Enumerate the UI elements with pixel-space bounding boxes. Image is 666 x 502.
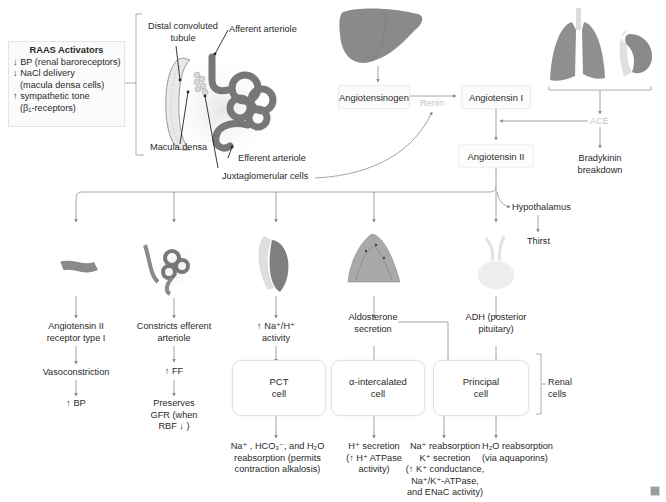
- label-efferent-arteriole: Efferent arteriole: [238, 153, 306, 165]
- renal-line1: Renal: [548, 377, 578, 389]
- glomerulus-icon: [145, 243, 199, 294]
- activator-item: (macula densa cells): [9, 80, 124, 92]
- activators-title: RAAS Activators: [9, 45, 124, 57]
- at1r-line2: receptor type I: [36, 333, 116, 345]
- hypothalamus-label: Hypothalamus: [512, 202, 571, 214]
- renal-cells-label: Renal cells: [548, 377, 578, 400]
- principal-line2: cell: [463, 388, 499, 400]
- adh-label: ADH (posterior pituitary): [456, 312, 536, 335]
- nah-line2: activity: [246, 333, 306, 345]
- adrenal-gland-icon: [348, 234, 400, 282]
- kidney-icon: [620, 30, 653, 76]
- pct-outcome-line: contraction alkalosis): [230, 464, 325, 476]
- pct-outcome-line: reabsorption (permits: [230, 453, 325, 465]
- kidney-small-icon: [258, 236, 288, 292]
- principal-outcome: Na⁺ reabsorption K⁺ secretion (↑ K⁺ cond…: [404, 441, 486, 499]
- ace-label: ACE: [590, 116, 609, 128]
- pituitary-icon: [478, 236, 514, 289]
- principal-outcome-line: (↑ K⁺ conductance,: [404, 464, 486, 476]
- alpha-intercalated-cell-box: α-intercalated cell: [331, 360, 425, 416]
- gfr-line3: RBF ↓ ): [139, 421, 209, 433]
- pct-cell-box: PCT cell: [232, 360, 326, 416]
- label-afferent-arteriole: Afferent arteriole: [229, 24, 297, 36]
- liver-icon: [339, 8, 422, 63]
- activator-item: ↓ NaCl delivery: [9, 68, 124, 80]
- na-h-activity-label: ↑ Na⁺/H⁺ activity: [246, 321, 306, 344]
- alpha-outcome-line: H⁺ secretion: [341, 441, 407, 453]
- pct-line1: PCT: [270, 376, 289, 388]
- activator-item: ↓ BP (renal baroreceptors): [9, 57, 124, 69]
- angiotensin-2-box: Angiotensin II: [458, 144, 534, 168]
- angiotensin-1-box: Angiotensin I: [461, 85, 531, 109]
- alpha-line2: cell: [349, 388, 407, 400]
- lungs-icon: [550, 8, 605, 81]
- gfr-line2: GFR (when: [139, 410, 209, 422]
- principal-outcome-line: Na⁺ reabsorption: [404, 441, 486, 453]
- principal-line1: Principal: [463, 376, 499, 388]
- aldo-line1: Aldosterone: [340, 312, 406, 324]
- alpha-outcome-line: activity): [341, 464, 407, 476]
- at1-receptor-label: Angiotensin II receptor type I: [36, 321, 116, 344]
- gfr-line1: Preserves: [139, 398, 209, 410]
- aldo-line2: secretion: [340, 324, 406, 336]
- nah-line1: ↑ Na⁺/H⁺: [246, 321, 306, 333]
- principal-outcome-line: Na⁺/K⁺-ATPase,: [404, 476, 486, 488]
- principal-cell-box: Principal cell: [433, 360, 529, 416]
- label-dct-line1: Distal convoluted: [138, 21, 228, 33]
- bradykinin-line2: breakdown: [570, 165, 630, 177]
- at1r-line1: Angiotensin II: [36, 321, 116, 333]
- adh-line2: pituitary): [456, 324, 536, 336]
- label-macula-densa: Macula densa: [150, 142, 207, 154]
- increased-bp-label: ↑ BP: [36, 398, 116, 410]
- pct-outcome-line: Na⁺ , HCO₃⁻, and H₂O: [230, 441, 325, 453]
- vasoconstriction-label: Vasoconstriction: [36, 367, 116, 379]
- adh-outcome: H₂O reabsorption (via aquaporins): [482, 441, 553, 464]
- adh-line1: ADH (posterior: [456, 312, 536, 324]
- activator-item: (β₁-receptors): [9, 103, 124, 115]
- efferent-line1: Constricts efferent: [129, 321, 219, 333]
- pct-outcome: Na⁺ , HCO₃⁻, and H₂O reabsorption (permi…: [230, 441, 325, 476]
- preserves-gfr-label: Preserves GFR (when RBF ↓ ): [139, 398, 209, 433]
- jg-to-renin-arrow: [315, 112, 432, 178]
- aldosterone-secretion-label: Aldosterone secretion: [340, 312, 406, 335]
- raas-activators-box: RAAS Activators ↓ BP (renal baroreceptor…: [8, 41, 125, 127]
- pct-line2: cell: [270, 388, 289, 400]
- thirst-label: Thirst: [527, 236, 550, 248]
- bradykinin-breakdown-label: Bradykinin breakdown: [570, 153, 630, 176]
- increased-ff-label: ↑ FF: [144, 366, 204, 378]
- label-dct-line2: tubule: [138, 33, 228, 45]
- efferent-line2: arteriole: [129, 333, 219, 345]
- renin-label: Renin: [420, 98, 444, 110]
- expand-icon[interactable]: [650, 486, 660, 496]
- alpha-outcome: H⁺ secretion (↑ H⁺ ATPase activity): [341, 441, 407, 476]
- adh-outcome-line: H₂O reabsorption: [482, 441, 553, 453]
- activator-item: ↑ sympathetic tone: [9, 91, 124, 103]
- adh-outcome-line: (via aquaporins): [482, 453, 553, 465]
- renal-line2: cells: [548, 389, 578, 401]
- label-dct: Distal convoluted tubule: [138, 21, 228, 44]
- receptor-icon: [62, 265, 96, 268]
- bradykinin-line1: Bradykinin: [570, 153, 630, 165]
- principal-outcome-line: and ENaC activity): [404, 487, 486, 499]
- label-juxtaglomerular-cells: Juxtaglomerular cells: [222, 171, 308, 183]
- angiotensinogen-box: Angiotensinogen: [338, 85, 410, 109]
- principal-outcome-line: K⁺ secretion: [404, 453, 486, 465]
- alpha-line1: α-intercalated: [349, 376, 407, 388]
- alpha-outcome-line: (↑ H⁺ ATPase: [341, 453, 407, 465]
- constricts-efferent-label: Constricts efferent arteriole: [129, 321, 219, 344]
